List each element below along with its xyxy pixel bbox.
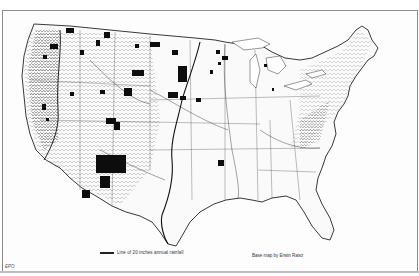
bottom-rule <box>0 271 419 273</box>
us-map <box>0 0 419 276</box>
legend-rainfall-label: Line of 20 inches annual rainfall <box>117 250 184 255</box>
rainfall-line-swatch <box>100 252 114 254</box>
map-credit: Base map by Erwin Raisz <box>252 253 303 258</box>
corner-mark: EPO <box>5 264 15 269</box>
map-legend: Line of 20 inches annual rainfall <box>100 250 184 255</box>
